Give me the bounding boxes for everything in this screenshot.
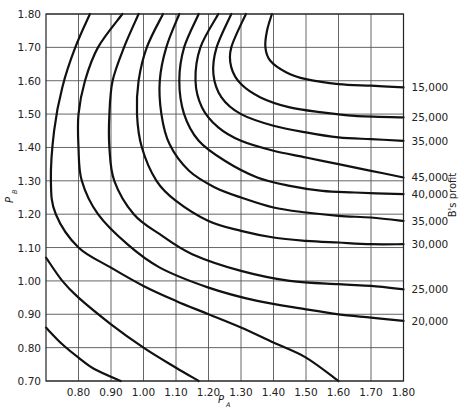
y-tick-label: 1.80 (18, 8, 41, 20)
contour-line (159, 14, 403, 221)
contour-labels: 20,00025,00030,00035,00040,00045,00035,0… (412, 81, 449, 327)
y-tick-label: 0.90 (18, 308, 41, 320)
y-tick-label: 1.10 (18, 242, 41, 254)
y-tick-label: 1.70 (18, 41, 41, 53)
contour-label: 40,000 (412, 188, 449, 200)
contour-chart: 0.800.901.001.101.201.301.401.501.601.70… (0, 0, 464, 411)
contour-label: 20,000 (412, 315, 449, 327)
y-tick-label: 1.60 (18, 75, 41, 87)
y-tick-labels: 0.700.800.901.001.101.201.301.401.501.60… (18, 8, 41, 387)
contour-line (51, 14, 339, 381)
contour-line (265, 14, 403, 87)
y-tick-label: 0.70 (18, 375, 41, 387)
grid (46, 14, 404, 381)
contour-label: 45,000 (412, 171, 449, 183)
y-tick-label: 1.50 (18, 108, 41, 120)
y-tick-label: 1.00 (18, 275, 41, 287)
y-tick-label: 1.20 (18, 208, 41, 220)
x-tick-label: 1.10 (164, 386, 187, 398)
y-tick-label: 1.40 (18, 141, 41, 153)
y-axis-label-subscript: B (11, 189, 19, 194)
x-tick-label: 1.50 (294, 386, 317, 398)
x-tick-label: 0.80 (67, 386, 90, 398)
contour-label: 35,000 (412, 215, 449, 227)
x-tick-label: 0.90 (99, 386, 122, 398)
x-tick-label: 1.20 (197, 386, 220, 398)
x-axis-label-subscript: A (225, 401, 230, 409)
right-axis-label: B's profit (447, 173, 458, 218)
contour-label: 30,000 (412, 238, 449, 250)
contour-label: 25,000 (412, 111, 449, 123)
contour-line (109, 14, 404, 289)
contour-line (230, 14, 404, 117)
contour-line (195, 14, 403, 178)
contour-line (213, 14, 403, 141)
contour-line (46, 328, 121, 381)
x-tick-label: 1.60 (327, 386, 350, 398)
x-tick-label: 1.00 (132, 386, 155, 398)
y-axis-label: P (4, 196, 15, 203)
x-axis-label: P (218, 394, 225, 405)
x-tick-label: 1.80 (392, 386, 415, 398)
y-tick-label: 0.80 (18, 342, 41, 354)
contour-label: 35,000 (412, 135, 449, 147)
contour-label: 15,000 (412, 81, 449, 93)
x-tick-label: 1.30 (229, 386, 252, 398)
contour-line (137, 14, 404, 244)
contour-line (179, 14, 403, 194)
y-tick-label: 1.30 (18, 175, 41, 187)
contours (46, 14, 404, 381)
x-tick-labels: 0.800.901.001.101.201.301.401.501.601.70… (67, 386, 415, 398)
contour-label: 25,000 (412, 283, 449, 295)
plot-frame (46, 14, 404, 381)
x-tick-label: 1.70 (359, 386, 382, 398)
x-tick-label: 1.40 (262, 386, 285, 398)
